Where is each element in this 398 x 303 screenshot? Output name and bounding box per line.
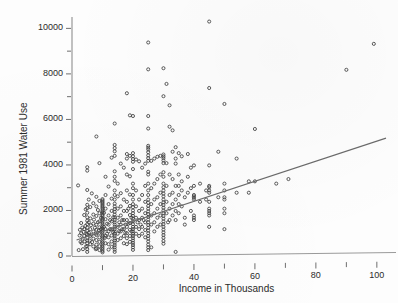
data-point	[183, 223, 186, 226]
data-point	[128, 175, 131, 178]
data-point	[86, 203, 89, 206]
data-point	[86, 169, 89, 172]
data-point	[113, 150, 116, 153]
data-point	[116, 195, 119, 198]
data-point	[107, 214, 110, 217]
data-point	[147, 193, 150, 196]
data-point	[208, 200, 211, 203]
data-point	[223, 212, 226, 215]
x-tick-label: 40	[174, 273, 214, 282]
data-point	[168, 104, 171, 107]
scatter-plot-figure: Summer 1981 Water Use Income in Thousand…	[0, 0, 398, 303]
data-point	[141, 193, 144, 196]
data-point	[147, 41, 150, 44]
data-point	[217, 196, 220, 199]
x-tick-label: 80	[296, 271, 336, 280]
data-point	[147, 68, 150, 71]
data-point	[138, 198, 141, 201]
data-point	[162, 95, 165, 98]
data-point	[134, 189, 137, 192]
data-point	[174, 157, 177, 160]
data-point	[134, 205, 137, 208]
data-point	[162, 175, 165, 178]
data-point	[89, 206, 92, 209]
data-point	[87, 198, 90, 201]
data-point	[208, 20, 211, 23]
data-point	[156, 196, 159, 199]
data-point	[372, 42, 375, 45]
data-point	[116, 182, 119, 185]
data-point	[171, 150, 174, 153]
x-tick-label: 0	[52, 275, 92, 284]
data-point	[141, 232, 144, 235]
data-point	[162, 186, 165, 189]
data-point	[208, 86, 211, 89]
data-point	[174, 218, 177, 221]
data-point	[98, 162, 101, 165]
data-point	[144, 229, 147, 232]
data-point	[345, 68, 348, 71]
data-point	[107, 248, 110, 251]
y-axis-ticks	[66, 28, 71, 256]
data-point	[128, 193, 131, 196]
data-point	[128, 154, 131, 157]
data-point	[177, 212, 180, 215]
data-point	[153, 221, 156, 224]
data-point	[113, 143, 116, 146]
y-tick-label: 0	[58, 251, 63, 260]
data-point	[98, 240, 101, 243]
data-point	[205, 198, 208, 201]
data-point	[253, 127, 256, 130]
data-point	[122, 234, 125, 237]
data-point	[189, 187, 192, 190]
y-tick-label: 6000	[43, 114, 63, 123]
data-point	[159, 214, 162, 217]
data-point	[125, 152, 128, 155]
data-point	[147, 201, 150, 204]
data-point	[113, 175, 116, 178]
data-point	[125, 243, 128, 246]
data-point	[107, 203, 110, 206]
data-point	[192, 164, 195, 167]
data-point	[113, 170, 116, 173]
data-point	[113, 189, 116, 192]
data-point	[131, 203, 134, 206]
data-point	[141, 166, 144, 169]
data-point	[98, 245, 101, 248]
data-point	[131, 114, 134, 117]
data-point	[177, 152, 180, 155]
data-point	[186, 191, 189, 194]
data-point	[138, 209, 141, 212]
data-point	[171, 203, 174, 206]
data-point	[113, 193, 116, 196]
data-point	[174, 198, 177, 201]
data-point	[77, 249, 80, 252]
data-point	[107, 243, 110, 246]
data-point	[180, 189, 183, 192]
data-point	[128, 114, 131, 117]
data-point	[156, 216, 159, 219]
data-point	[92, 218, 95, 221]
data-point	[98, 236, 101, 239]
data-point	[208, 164, 211, 167]
data-point	[119, 192, 122, 195]
data-point	[144, 184, 147, 187]
data-point	[119, 237, 122, 240]
data-point	[208, 225, 211, 228]
data-point	[162, 171, 165, 174]
data-point	[177, 203, 180, 206]
data-point	[113, 179, 116, 182]
data-point	[174, 209, 177, 212]
data-point	[156, 178, 159, 181]
x-axis-spine	[72, 253, 396, 257]
data-point	[159, 223, 162, 226]
data-point	[180, 180, 183, 183]
data-point	[107, 185, 110, 188]
data-point	[138, 228, 141, 231]
data-point	[174, 250, 177, 253]
data-point	[86, 211, 89, 214]
data-point	[147, 198, 150, 201]
data-point	[198, 200, 201, 203]
data-point	[189, 166, 192, 169]
data-point	[122, 198, 125, 201]
